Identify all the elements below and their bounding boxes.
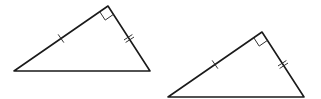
congruent-triangles-diagram (0, 0, 321, 99)
right-angle-marker (100, 12, 114, 20)
triangle-2 (168, 32, 304, 97)
triangle-outline (14, 6, 150, 71)
tick-mark (58, 34, 64, 42)
triangle-outline (168, 32, 304, 97)
triangle-1 (14, 6, 150, 71)
tick-mark (212, 60, 218, 68)
right-angle-marker (254, 38, 268, 46)
